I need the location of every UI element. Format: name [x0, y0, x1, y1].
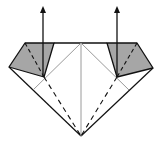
diagram-svg — [0, 0, 161, 145]
right-flap — [107, 43, 153, 77]
origami-diagram — [0, 0, 161, 145]
left-flap — [9, 43, 54, 77]
left-arrow-head-icon — [40, 6, 46, 13]
left-outer-edge — [9, 67, 81, 136]
right-arrow-head-icon — [114, 6, 120, 13]
